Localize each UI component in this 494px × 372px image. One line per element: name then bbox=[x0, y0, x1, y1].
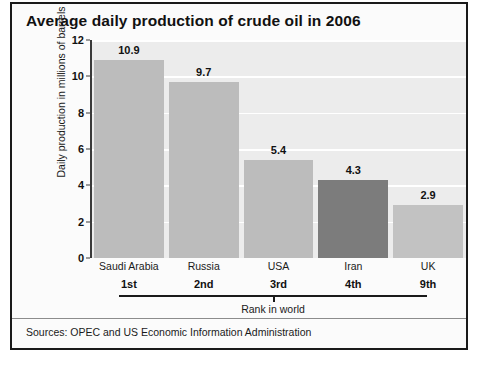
bar-value-label: 5.4 bbox=[271, 144, 286, 156]
y-axis-tick-label: 6 bbox=[78, 143, 84, 155]
x-axis-category-label: Iran bbox=[344, 260, 362, 272]
y-axis-tick-label: 10 bbox=[72, 70, 84, 82]
chart-title: Average daily production of crude oil in… bbox=[26, 12, 361, 30]
bar-value-label: 9.7 bbox=[196, 66, 211, 78]
chart-figure: Average daily production of crude oil in… bbox=[10, 2, 468, 350]
bar bbox=[244, 160, 314, 258]
rank-axis-tick bbox=[273, 297, 275, 302]
x-axis-category-label: USA bbox=[268, 260, 290, 272]
footer-divider bbox=[12, 318, 466, 319]
x-axis-category-label: UK bbox=[421, 260, 436, 272]
gridline bbox=[92, 40, 466, 42]
y-axis-tick-label: 4 bbox=[78, 179, 84, 191]
x-axis-category-labels: Saudi ArabiaRussiaUSAIranUK bbox=[92, 260, 466, 276]
rank-label: 1st bbox=[121, 278, 137, 290]
bar bbox=[94, 60, 164, 258]
x-axis-category-label: Saudi Arabia bbox=[99, 260, 159, 272]
bar bbox=[169, 82, 239, 258]
y-axis-tick-label: 8 bbox=[78, 107, 84, 119]
rank-label: 9th bbox=[420, 278, 437, 290]
y-axis-ticks: 024681012 bbox=[56, 40, 90, 258]
bar bbox=[393, 205, 463, 258]
y-axis-tick-label: 2 bbox=[78, 216, 84, 228]
plot-region: Daily production in millions of barrels … bbox=[12, 40, 466, 276]
bar bbox=[318, 180, 388, 258]
rank-label: 2nd bbox=[194, 278, 214, 290]
bar-value-label: 10.9 bbox=[118, 44, 139, 56]
sources-note: Sources: OPEC and US Economic Informatio… bbox=[26, 326, 311, 338]
y-axis-tick-label: 12 bbox=[72, 34, 84, 46]
plot-area: 10.99.75.44.32.9 bbox=[92, 40, 466, 258]
rank-axis-label: Rank in world bbox=[241, 303, 305, 315]
rank-label: 4th bbox=[345, 278, 362, 290]
rank-label: 3rd bbox=[270, 278, 287, 290]
y-axis-tick-label: 0 bbox=[78, 252, 84, 264]
rank-axis: Rank in world 1st2nd3rd4th9th bbox=[12, 278, 466, 322]
x-axis-category-label: Russia bbox=[188, 260, 220, 272]
bar-value-label: 2.9 bbox=[420, 189, 435, 201]
bar-value-label: 4.3 bbox=[346, 164, 361, 176]
